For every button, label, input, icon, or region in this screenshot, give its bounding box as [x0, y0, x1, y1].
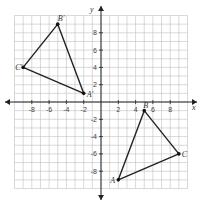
vertex-label: C [182, 150, 188, 159]
vertex-label: A′ [86, 90, 94, 99]
y-axis-up-arrow-icon [98, 6, 104, 11]
x-tick-label: 6 [151, 106, 155, 113]
x-axis-left-arrow-icon [5, 99, 10, 105]
y-tick-label: 8 [93, 29, 97, 36]
x-tick-label: -8 [29, 106, 35, 113]
y-axis-down-arrow-icon [98, 195, 104, 200]
y-tick-label: -2 [91, 116, 97, 123]
y-tick-label: 4 [93, 64, 97, 71]
x-tick-label: 4 [134, 106, 138, 113]
y-tick-label: 2 [93, 81, 97, 88]
y-tick-label: -4 [91, 133, 97, 140]
x-tick-label: -6 [46, 106, 52, 113]
x-tick-label: -2 [81, 106, 87, 113]
y-tick-label: -8 [91, 168, 97, 175]
vertex-label: B [143, 101, 148, 110]
vertex-point [82, 92, 86, 96]
coordinate-plane: -8-6-4-224688642-2-4-6-8 A′B′C′ABC x y [0, 0, 202, 208]
x-axis-label: x [191, 103, 196, 112]
y-axis-label: y [89, 5, 94, 14]
y-tick-label: 6 [93, 47, 97, 54]
x-tick-label: -4 [63, 106, 69, 113]
vertex-point [177, 152, 181, 156]
x-tick-label: 8 [168, 106, 172, 113]
vertex-label: A [109, 176, 115, 185]
vertex-label: C′ [15, 63, 22, 72]
vertex-point [117, 178, 121, 182]
y-tick-label: -6 [91, 150, 97, 157]
triangles: A′B′C′ABC [15, 14, 188, 185]
x-tick-label: 2 [116, 106, 120, 113]
vertex-label: B′ [58, 14, 65, 23]
